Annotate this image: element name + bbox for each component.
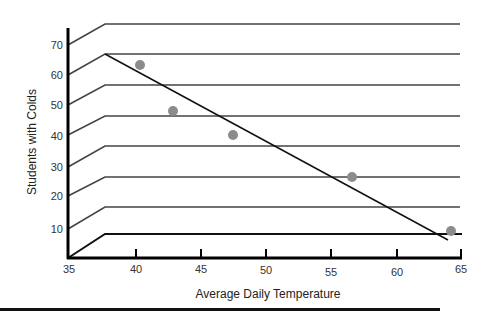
svg-text:40: 40: [130, 263, 142, 275]
svg-text:30: 30: [51, 161, 63, 173]
x-axis-title: Average Daily Temperature: [196, 287, 341, 301]
data-point: [347, 172, 357, 182]
svg-text:60: 60: [51, 69, 63, 81]
data-point: [135, 60, 145, 70]
data-points: [135, 60, 456, 236]
y-tick-labels: 70 60 50 40 30 20 10: [51, 39, 63, 235]
svg-text:50: 50: [51, 99, 63, 111]
svg-text:40: 40: [51, 130, 63, 142]
svg-text:70: 70: [51, 39, 63, 51]
y-axis-title: Students with Colds: [25, 89, 39, 195]
svg-text:20: 20: [51, 190, 63, 202]
trend-line: [105, 54, 448, 240]
svg-text:60: 60: [391, 266, 403, 278]
scatter-chart: 70 60 50 40 30 20 10 35 40 45 50 55 60 6…: [0, 0, 491, 321]
svg-text:50: 50: [260, 264, 272, 276]
svg-text:35: 35: [63, 263, 75, 275]
bottom-rule: [0, 308, 440, 311]
svg-text:65: 65: [455, 263, 467, 275]
data-point: [446, 226, 456, 236]
svg-text:45: 45: [195, 263, 207, 275]
data-point: [228, 130, 238, 140]
svg-text:10: 10: [51, 223, 63, 235]
data-point: [168, 106, 178, 116]
svg-text:55: 55: [325, 266, 337, 278]
x-tick-labels: 35 40 45 50 55 60 65: [63, 263, 467, 278]
